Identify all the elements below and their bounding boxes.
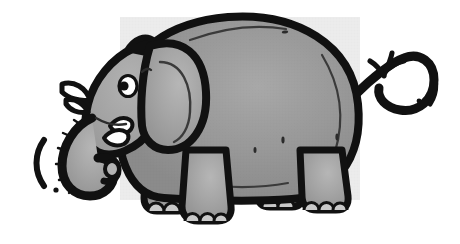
eye-pupil [119,81,128,90]
elephant-illustration [0,0,460,244]
lower-tusk [104,130,128,145]
front-foreleg [182,150,231,221]
eye [119,76,137,97]
front-hindleg [300,150,348,210]
trunk-tip [105,161,119,177]
ear [141,43,206,150]
illustration-canvas: Cartoon elephant facing left with curled… [0,0,460,244]
toenails [304,203,347,210]
toenails [185,214,228,221]
